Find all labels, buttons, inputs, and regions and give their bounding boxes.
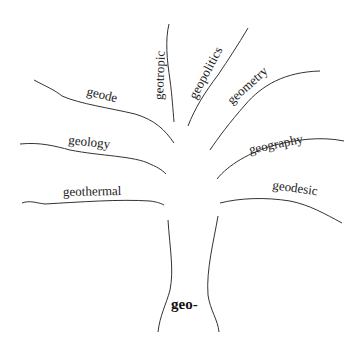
branch-line-geodesic	[220, 199, 342, 223]
branch-label-geography: geography	[248, 131, 305, 157]
trunk-left-line	[158, 220, 172, 332]
branch-line-geothermal	[22, 200, 164, 205]
tree-drawing: geotropic geopolitics geometry geode geo…	[0, 0, 360, 352]
branch-label-geodesic: geodesic	[272, 177, 319, 198]
root-label: geo-	[171, 296, 198, 312]
branch-line-geotropic	[167, 24, 174, 122]
trunk-right-line	[208, 216, 219, 332]
branch-label-geology: geology	[68, 132, 112, 151]
branch-label-geotropic: geotropic	[151, 50, 168, 100]
branch-label-geode: geode	[85, 83, 119, 105]
branch-label-geothermal: geothermal	[63, 183, 122, 199]
branch-label-geometry: geometry	[224, 63, 271, 107]
word-tree-diagram: geotropic geopolitics geometry geode geo…	[0, 0, 360, 352]
